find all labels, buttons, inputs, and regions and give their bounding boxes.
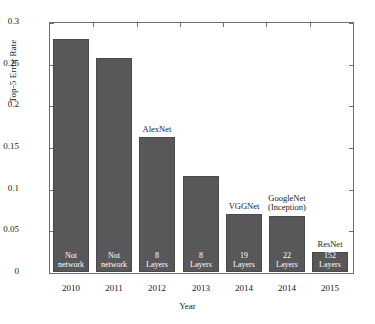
y-axis-tick-label: 0.3 (0, 17, 19, 26)
bar-inner-label: 8Layers (175, 252, 227, 269)
y-axis-tick-label: 0.15 (0, 142, 19, 151)
bars-container: NotnetworkNotnetwork8LayersAlexNet8Layer… (49, 22, 352, 272)
bar-inner-label: Notnetwork (88, 252, 140, 269)
y-axis-tick-label: 0 (0, 267, 19, 276)
bar[interactable]: Notnetwork (53, 39, 89, 272)
bar-inner-label: 19Layers (218, 252, 270, 269)
y-axis-tick-label: 0.25 (0, 59, 19, 68)
bar-above-label: ResNet (299, 240, 361, 249)
bar-inner-label: 8Layers (131, 252, 183, 269)
bar[interactable]: 19Layers (226, 214, 262, 272)
y-axis-tick-label: 0.2 (0, 100, 19, 109)
bar[interactable]: 8Layers (139, 137, 175, 272)
bar[interactable]: 8Layers (183, 176, 219, 272)
y-axis-tick (349, 273, 353, 274)
x-axis-tick-labels: 2010201120122013201420142015 (49, 283, 352, 297)
bar-above-label: GoogleNet(Inception) (256, 194, 318, 212)
bar-chart: Top-5 Error Rate NotnetworkNotnetwork8La… (0, 0, 375, 324)
y-axis-tick-label: 0.05 (0, 225, 19, 234)
y-axis-tick (50, 273, 54, 274)
y-axis-label: Top-5 Error Rate (8, 16, 18, 126)
bar-inner-label: 22Layers (261, 252, 313, 269)
bar-above-label: AlexNet (126, 125, 188, 134)
x-axis-tick-label: 2012 (132, 283, 182, 293)
bar[interactable]: 152Layers (312, 252, 348, 272)
x-axis-label: Year (0, 301, 375, 311)
bar-inner-label: 152Layers (304, 252, 356, 269)
x-axis-tick-label: 2015 (305, 283, 355, 293)
y-axis-tick-label: 0.1 (0, 184, 19, 193)
bar[interactable]: Notnetwork (96, 58, 132, 272)
bar-inner-label: Notnetwork (45, 252, 97, 269)
